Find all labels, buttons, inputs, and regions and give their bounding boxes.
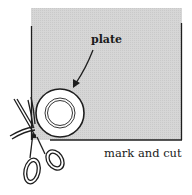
plate-label: plate [91, 33, 122, 46]
illustration [0, 0, 192, 195]
diagram-canvas: plate mark and cut [0, 0, 192, 195]
caption: mark and cut [104, 146, 182, 160]
plate [36, 89, 84, 137]
